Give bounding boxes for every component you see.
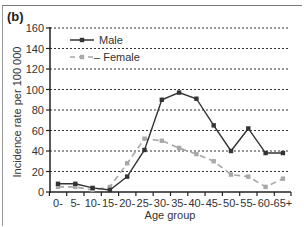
x-tick-label: 55- (240, 197, 256, 209)
x-tick-label: 15- (102, 197, 118, 209)
y-tick-label: 160 (26, 22, 44, 34)
x-axis-ticks: 0-5-10-15-20-25-30-35-40-45-50-55-60-65+ (49, 192, 292, 209)
data-point-female (142, 137, 146, 141)
x-tick-label: 30- (154, 197, 170, 209)
data-point-female (229, 172, 233, 176)
data-point-male (142, 148, 146, 152)
y-tick-label: 80 (32, 104, 44, 116)
data-point-male (194, 97, 198, 101)
x-axis-title: Age group (145, 209, 196, 221)
data-point-female (263, 185, 267, 189)
series-line-female (58, 139, 283, 190)
x-tick-label: 60- (258, 197, 274, 209)
gridlines (50, 28, 288, 172)
x-tick-label: 10- (85, 197, 101, 209)
y-tick-label: 100 (26, 84, 44, 96)
data-point-female (212, 159, 216, 163)
legend: Male– Female (70, 34, 140, 63)
data-point-male (263, 151, 267, 155)
data-point-male (160, 98, 164, 102)
data-point-male (246, 126, 250, 130)
line-chart: 020406080100120140160 0-5-10-15-20-25-30… (0, 0, 304, 227)
x-tick-label: 20- (119, 197, 135, 209)
legend-label-male: Male (99, 34, 123, 46)
y-tick-label: 140 (26, 43, 44, 55)
x-tick-label: 25- (137, 197, 153, 209)
y-tick-label: 0 (38, 186, 44, 198)
data-point-female (125, 161, 129, 165)
y-tick-label: 120 (26, 63, 44, 75)
y-axis-ticks: 020406080100120140160 (26, 22, 50, 198)
data-point-female (160, 139, 164, 143)
y-axis-title: Incidence rate per 100 000 (11, 47, 23, 178)
x-tick-label: 0- (53, 197, 63, 209)
x-tick-label: 5- (70, 197, 80, 209)
data-point-male (108, 188, 112, 192)
data-point-female (281, 176, 285, 180)
data-point-female (246, 174, 250, 178)
x-tick-label: 35- (171, 197, 187, 209)
x-tick-label: 65+ (274, 197, 293, 209)
series-lines (56, 90, 285, 192)
x-tick-label: 50- (223, 197, 239, 209)
data-point-male (229, 149, 233, 153)
data-point-male (177, 90, 181, 94)
y-tick-label: 20 (32, 166, 44, 178)
data-point-male (90, 186, 94, 190)
data-point-male (73, 182, 77, 186)
data-point-male (281, 151, 285, 155)
data-point-male (56, 182, 60, 186)
legend-label-female: – Female (94, 51, 140, 63)
y-tick-label: 40 (32, 145, 44, 157)
data-point-female (177, 146, 181, 150)
x-tick-label: 40- (188, 197, 204, 209)
data-point-female (194, 152, 198, 156)
data-point-male (125, 174, 129, 178)
x-tick-label: 45- (206, 197, 222, 209)
y-tick-label: 60 (32, 125, 44, 137)
data-point-male (212, 123, 216, 127)
